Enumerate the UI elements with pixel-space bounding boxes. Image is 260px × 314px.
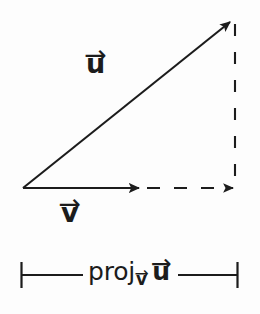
u-vector-arrow-accent: → bbox=[84, 41, 107, 68]
proj-argument-u-arrow-accent: → bbox=[151, 251, 172, 276]
vector-projection-diagram: → u → v proj → v → u bbox=[0, 0, 260, 314]
proj-argument-u: → u bbox=[152, 259, 170, 284]
proj-word: proj bbox=[88, 259, 135, 284]
u-vector-symbol: → u bbox=[86, 50, 105, 77]
proj-subscript-v-arrow-accent: → bbox=[134, 265, 148, 282]
u-vector-line bbox=[23, 22, 230, 188]
v-vector-symbol: → v bbox=[61, 199, 79, 226]
v-vector-arrow-accent: → bbox=[58, 190, 81, 217]
proj-argument-u-symbol: → u bbox=[152, 259, 170, 284]
u-vector-label: → u bbox=[86, 50, 105, 77]
projection-expression-label: proj → v → u bbox=[88, 259, 170, 284]
v-vector-label: → v bbox=[61, 199, 79, 226]
proj-subscript-v-symbol: → v bbox=[136, 271, 147, 288]
proj-subscript-v: → v bbox=[136, 271, 147, 288]
